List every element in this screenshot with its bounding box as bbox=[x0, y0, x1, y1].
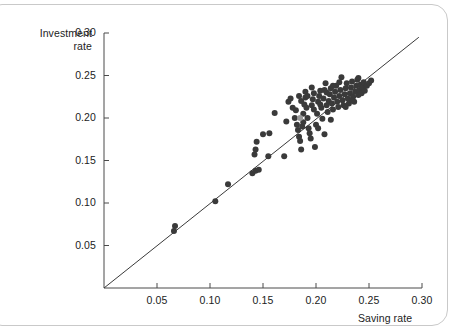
data-point bbox=[349, 97, 355, 103]
data-point bbox=[311, 90, 317, 96]
data-point bbox=[298, 146, 304, 152]
x-tick-label: 0.25 bbox=[352, 294, 386, 306]
y-tick-label: 0.15 bbox=[66, 154, 96, 166]
data-point bbox=[332, 89, 338, 95]
data-point bbox=[328, 117, 334, 123]
data-point bbox=[349, 78, 355, 84]
data-point bbox=[256, 167, 262, 173]
data-point bbox=[324, 90, 330, 96]
data-point bbox=[305, 115, 311, 121]
data-point bbox=[336, 79, 342, 85]
data-point bbox=[225, 181, 231, 187]
data-point bbox=[305, 93, 311, 99]
data-point bbox=[308, 135, 314, 141]
data-point bbox=[368, 78, 374, 84]
data-point bbox=[254, 139, 260, 145]
x-tick-label: 0.05 bbox=[140, 294, 174, 306]
data-point bbox=[348, 84, 354, 90]
data-point bbox=[320, 95, 326, 101]
data-point bbox=[310, 96, 316, 102]
data-point bbox=[338, 74, 344, 80]
data-point bbox=[317, 101, 323, 107]
data-point bbox=[253, 146, 259, 152]
y-tick-label: 0.20 bbox=[66, 111, 96, 123]
data-point bbox=[290, 105, 296, 111]
data-point bbox=[252, 152, 258, 158]
data-point bbox=[355, 75, 361, 81]
data-point bbox=[323, 80, 329, 86]
data-point bbox=[298, 98, 304, 104]
x-tick-label: 0.20 bbox=[299, 294, 333, 306]
data-point bbox=[337, 87, 343, 93]
reference-line bbox=[104, 37, 419, 288]
data-point bbox=[340, 97, 346, 103]
data-point bbox=[330, 83, 336, 89]
data-point bbox=[311, 107, 317, 113]
data-point bbox=[260, 131, 266, 137]
scatter-plot-figure: Investment rate Saving rate 0.050.100.15… bbox=[0, 0, 456, 332]
highlighted-data-point bbox=[297, 115, 303, 121]
data-point bbox=[362, 88, 368, 94]
data-point bbox=[329, 101, 335, 107]
data-point bbox=[172, 223, 178, 229]
data-point bbox=[303, 105, 309, 111]
data-point bbox=[288, 95, 294, 101]
scanned-page: Investment rate Saving rate 0.050.100.15… bbox=[0, 0, 456, 332]
x-tick-label: 0.10 bbox=[193, 294, 227, 306]
forty-five-degree-line bbox=[104, 37, 419, 288]
data-point bbox=[330, 107, 336, 113]
data-point bbox=[306, 125, 312, 131]
y-tick-label: 0.10 bbox=[66, 196, 96, 208]
data-point bbox=[297, 138, 303, 144]
data-point bbox=[334, 99, 340, 105]
data-point bbox=[266, 130, 272, 136]
plot-canvas bbox=[0, 0, 456, 332]
data-point bbox=[283, 118, 289, 124]
data-point bbox=[296, 93, 302, 99]
data-point bbox=[272, 110, 278, 116]
y-tick-label: 0.05 bbox=[66, 239, 96, 251]
data-point bbox=[344, 80, 350, 86]
data-point bbox=[307, 130, 313, 136]
data-point bbox=[319, 116, 325, 122]
x-tick-label: 0.30 bbox=[405, 294, 439, 306]
y-tick-label: 0.25 bbox=[66, 69, 96, 81]
data-point bbox=[294, 122, 300, 128]
data-point bbox=[343, 104, 349, 110]
data-point bbox=[321, 131, 327, 137]
x-tick-label: 0.15 bbox=[246, 294, 280, 306]
data-point bbox=[309, 84, 315, 90]
data-point bbox=[343, 85, 349, 91]
data-point bbox=[315, 125, 321, 131]
data-point bbox=[325, 109, 331, 115]
data-point bbox=[265, 153, 271, 159]
y-tick-label: 0.30 bbox=[66, 26, 96, 38]
data-point bbox=[335, 104, 341, 110]
data-point bbox=[312, 144, 318, 150]
data-point bbox=[281, 153, 287, 159]
data-point bbox=[212, 198, 218, 204]
data-point bbox=[171, 228, 177, 234]
data-point bbox=[292, 115, 298, 121]
